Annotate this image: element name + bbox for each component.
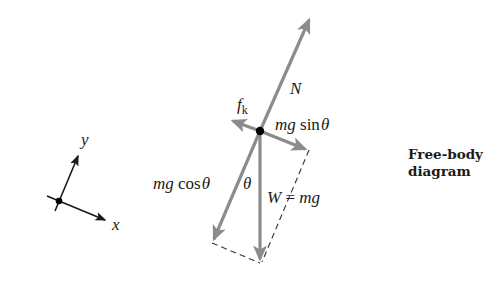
mg-sin-theta-label: mg sinθ [275, 115, 329, 134]
point-mass-dot [256, 127, 264, 135]
axes-origin-dot [56, 198, 63, 205]
normal-force-label: N [289, 79, 303, 98]
mg-sin-prefix: mg [275, 115, 296, 134]
force-arrows [214, 20, 309, 259]
friction-force-label: fk [237, 95, 248, 117]
friction-force-arrow [233, 121, 260, 131]
coordinate-axes: y x [47, 130, 120, 234]
mg-cos-func: cos [178, 174, 201, 193]
caption-line-1: Free-body [408, 146, 483, 163]
caption-line-2: diagram [408, 163, 483, 180]
mg-cos-prefix: mg [153, 174, 174, 193]
y-axis-label: y [79, 130, 89, 149]
friction-subscript: k [242, 103, 248, 117]
dashed-line-cos-to-weight [212, 243, 260, 263]
mg-cos-theta-arrow [214, 131, 260, 239]
diagram-caption: Free-body diagram [408, 146, 483, 180]
weight-lhs: W [267, 188, 283, 207]
x-axis-label: x [111, 215, 120, 234]
mg-sin-angle: θ [321, 115, 329, 134]
weight-label: W = mg [267, 188, 320, 207]
mg-cos-theta-label: mg cosθ [153, 174, 210, 193]
mg-cos-angle: θ [202, 174, 210, 193]
weight-rhs: mg [299, 188, 320, 207]
weight-equals: = [285, 188, 295, 207]
theta-angle-label: θ [243, 174, 251, 193]
mg-sin-func: sin [300, 115, 320, 134]
